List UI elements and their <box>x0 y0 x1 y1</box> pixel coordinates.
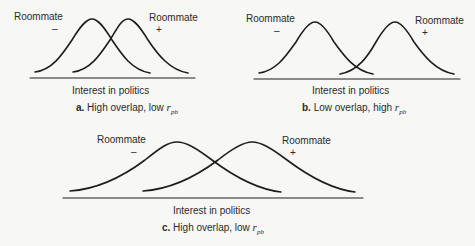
panel-b-caption: b. Low overlap, high rpb <box>302 101 406 116</box>
panel-a-caption-text: High overlap, low <box>84 102 166 113</box>
panel-b-left-sign: – <box>274 26 280 36</box>
panel-c-right-sign: + <box>290 148 296 158</box>
panel-b-right-sign: + <box>422 28 428 38</box>
panel-a-right-sign: + <box>156 25 162 35</box>
panel-a-caption: a. High overlap, low rpb <box>76 101 178 116</box>
panel-a-caption-sub: pb <box>171 108 178 116</box>
panel-c-caption: c. High overlap, low rpb <box>162 221 264 236</box>
panel-b-caption-text: Low overlap, high <box>311 102 395 113</box>
panel-a-right-label: Roommate <box>149 12 198 23</box>
panel-b-axis-label: Interest in politics <box>312 85 389 96</box>
panel-a-left-sign: – <box>52 24 58 34</box>
panel-b-right-label: Roommate <box>415 15 464 26</box>
panel-c-left-sign: – <box>131 147 137 157</box>
panel-a-curve-plus <box>73 19 188 73</box>
panel-c-left-label: Roommate <box>97 134 146 145</box>
panel-c-right-label: Roommate <box>282 135 331 146</box>
panel-b-caption-sub: pb <box>399 108 406 116</box>
panel-b-caption-letter: b. <box>302 102 311 113</box>
panel-c-curve-plus <box>143 142 355 192</box>
panel-a-left-label: Roommate <box>14 11 63 22</box>
panel-b-left-label: Roommate <box>246 13 295 24</box>
panel-b-curve-plus <box>340 22 454 74</box>
panel-c-axis-label: Interest in politics <box>173 205 250 216</box>
panel-c-caption-text: High overlap, low <box>170 222 252 233</box>
panel-c-caption-sub: pb <box>257 228 264 236</box>
panel-a-axis-label: Interest in politics <box>72 85 149 96</box>
